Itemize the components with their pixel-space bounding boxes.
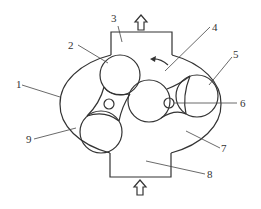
label-2: 2 xyxy=(68,39,74,51)
label-4: 4 xyxy=(212,21,218,33)
seal-curve-right-outer xyxy=(185,76,190,114)
label-6: 6 xyxy=(240,97,246,109)
label-7: 7 xyxy=(221,142,227,154)
rotor-bottom-left xyxy=(80,111,122,153)
label-1: 1 xyxy=(16,78,22,90)
housing-upper-left-arc xyxy=(60,55,111,104)
leader-9 xyxy=(34,128,76,139)
housing-lower-right-arc xyxy=(171,104,221,153)
leader-3 xyxy=(118,26,122,42)
leader-8 xyxy=(146,161,205,174)
small-rotor-left xyxy=(104,99,114,109)
label-5: 5 xyxy=(233,48,239,60)
pump-diagram: 1 2 3 4 5 6 7 8 9 xyxy=(0,0,261,209)
leader-lines xyxy=(22,26,237,174)
rotors xyxy=(80,55,218,153)
inlet-port-outline xyxy=(110,153,171,177)
label-8: 8 xyxy=(207,168,213,180)
part-labels: 1 2 3 4 5 6 7 8 9 xyxy=(16,12,246,180)
label-9: 9 xyxy=(26,133,32,145)
leader-1 xyxy=(22,85,60,97)
housing xyxy=(60,32,221,177)
inlet-up-arrow-icon xyxy=(134,180,146,195)
outlet-up-arrow-icon xyxy=(135,15,147,30)
leader-5 xyxy=(209,57,232,85)
counterclockwise-arrow-icon xyxy=(150,56,168,65)
leader-2 xyxy=(78,45,108,63)
label-3: 3 xyxy=(111,12,117,24)
